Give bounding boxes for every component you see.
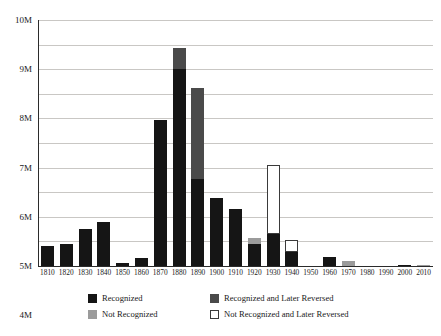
x-axis-tick-label: 1840 [96, 269, 111, 276]
bar-1850[interactable] [116, 263, 129, 266]
x-axis-tick-label: 1910 [228, 269, 243, 276]
bar-1810[interactable] [41, 246, 54, 266]
bar-1900[interactable] [210, 198, 223, 266]
x-axis-tick-label: 1850 [115, 269, 130, 276]
bar-segment [398, 265, 411, 266]
plot-area: 01M2M3M4M5M6M7M8M9M10M [38, 20, 433, 266]
bar-segment [191, 88, 204, 180]
bar-segment [229, 209, 242, 266]
x-axis-tick-label: 1940 [285, 269, 300, 276]
bar-1920[interactable] [248, 238, 261, 266]
bar-1930[interactable] [267, 165, 280, 266]
legend-label: Not Recognized and Later Reversed [224, 310, 349, 319]
bars-layer [38, 20, 433, 266]
legend-label: Recognized and Later Reversed [224, 294, 334, 303]
bar-segment [154, 120, 167, 266]
bar-1940[interactable] [285, 240, 298, 266]
x-axis-tick-label: 1990 [379, 269, 394, 276]
bar-segment [41, 246, 54, 266]
bar-segment [191, 179, 204, 266]
legend-swatch-not-recognized [88, 310, 97, 319]
y-axis-tick-label: 5M [19, 262, 38, 271]
x-axis-tick-label: 1970 [341, 269, 356, 276]
x-axis-tick-label: 1860 [134, 269, 149, 276]
bar-segment [210, 198, 223, 266]
legend-item-not-recognized[interactable]: Not Recognized [88, 310, 206, 319]
legend-label: Not Recognized [102, 310, 158, 319]
bar-segment [135, 258, 148, 266]
x-axis-tick-label: 1920 [247, 269, 262, 276]
bar-segment [267, 234, 280, 266]
y-axis-tick-label: 6M [19, 212, 38, 221]
bar-1830[interactable] [79, 229, 92, 266]
bar-segment [323, 257, 336, 266]
x-axis-tick-label: 1830 [78, 269, 93, 276]
bar-segment [267, 165, 280, 234]
x-axis-tick-label: 1820 [59, 269, 74, 276]
legend-swatch-not-recognized-reversed [210, 310, 219, 319]
bar-1880[interactable] [173, 48, 186, 266]
x-axis-tick-label: 1880 [172, 269, 187, 276]
x-axis-tick-label: 1870 [153, 269, 168, 276]
bar-segment [97, 222, 110, 266]
gridline: 0 [38, 266, 433, 267]
bar-segment [248, 244, 261, 266]
bar-segment [173, 69, 186, 266]
x-axis-tick-label: 1890 [190, 269, 205, 276]
bar-segment [342, 261, 355, 266]
x-axis-tick-label: 1960 [322, 269, 337, 276]
legend-swatch-recognized [88, 294, 97, 303]
x-axis-tick-label: 1810 [40, 269, 55, 276]
bar-1820[interactable] [60, 244, 73, 266]
bar-chart: 01M2M3M4M5M6M7M8M9M10M 18101820183018401… [0, 0, 441, 336]
bar-segment [285, 252, 298, 266]
bar-1840[interactable] [97, 222, 110, 266]
bar-1870[interactable] [154, 120, 167, 266]
bar-segment [116, 263, 129, 266]
y-axis-tick-label: 8M [19, 114, 38, 123]
x-axis-tick-label: 2010 [416, 269, 431, 276]
bar-1860[interactable] [135, 258, 148, 266]
bar-segment [79, 229, 92, 266]
y-axis-tick-label: 4M [19, 311, 38, 320]
x-axis-tick-label: 1950 [303, 269, 318, 276]
legend-item-recognized[interactable]: Recognized [88, 294, 206, 303]
bar-segment [60, 244, 73, 266]
y-axis-tick-label: 10M [15, 16, 38, 25]
legend-label: Recognized [102, 294, 143, 303]
x-axis-tick-label: 1930 [266, 269, 281, 276]
bar-1890[interactable] [191, 88, 204, 266]
bar-2010[interactable] [417, 265, 430, 266]
legend-swatch-recognized-reversed [210, 294, 219, 303]
bar-1970[interactable] [342, 261, 355, 266]
legend-item-not-recognized-reversed[interactable]: Not Recognized and Later Reversed [210, 310, 388, 319]
bar-segment [173, 48, 186, 69]
x-axis-tick-label: 2000 [397, 269, 412, 276]
bar-segment [285, 240, 298, 252]
y-axis-tick-label: 9M [19, 65, 38, 74]
bar-2000[interactable] [398, 265, 411, 266]
x-axis-tick-label: 1980 [360, 269, 375, 276]
bar-1960[interactable] [323, 257, 336, 266]
x-axis-tick-label: 1900 [209, 269, 224, 276]
chart-legend: RecognizedRecognized and Later ReversedN… [88, 294, 388, 319]
bar-1910[interactable] [229, 209, 242, 266]
y-axis-tick-label: 7M [19, 163, 38, 172]
legend-item-recognized-reversed[interactable]: Recognized and Later Reversed [210, 294, 388, 303]
bar-segment [417, 265, 430, 266]
